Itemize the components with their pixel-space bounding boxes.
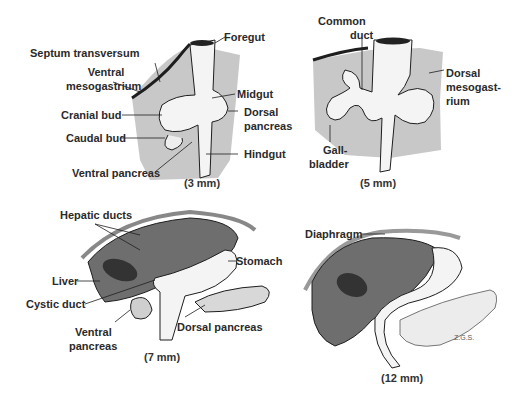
label-dorsal-pancreas: Dorsal pancreas bbox=[177, 321, 263, 333]
label-ventral-pancreas-line2: pancreas bbox=[69, 340, 117, 352]
label-stomach: Stomach bbox=[236, 255, 282, 267]
label-diaphragm: Diaphragm bbox=[305, 228, 362, 240]
label-dorsal-mesogastrium-line3: rium bbox=[446, 95, 470, 107]
label-common-duct-line1: Common bbox=[318, 15, 366, 27]
label-hepatic-ducts: Hepatic ducts bbox=[60, 209, 132, 221]
label-hindgut: Hindgut bbox=[244, 148, 286, 160]
panel-12mm-drawing bbox=[305, 231, 497, 368]
label-caudal-bud: Caudal bud bbox=[66, 132, 126, 144]
label-ventral-pancreas-line1: Ventral bbox=[75, 326, 112, 338]
label-gallbladder-line1: Gall- bbox=[323, 144, 347, 156]
caption-12mm: (12 mm) bbox=[381, 372, 423, 384]
label-dorsal-pancreas-line2: pancreas bbox=[244, 120, 292, 132]
label-ventral-pancreas: Ventral pancreas bbox=[72, 167, 160, 179]
label-common-duct-line2: duct bbox=[350, 29, 373, 41]
label-dorsal-pancreas-line1: Dorsal bbox=[244, 106, 278, 118]
label-ventral-mesogastrium-line2: mesogastrium bbox=[66, 80, 141, 92]
label-cranial-bud: Cranial bud bbox=[61, 109, 122, 121]
caption-3mm: (3 mm) bbox=[184, 177, 220, 189]
label-septum-transversum: Septum transversum bbox=[30, 47, 139, 59]
ventral-pancreas bbox=[131, 298, 152, 319]
label-cystic-duct: Cystic duct bbox=[26, 298, 85, 310]
label-ventral-mesogastrium-line1: Ventral bbox=[66, 66, 146, 78]
label-gallbladder-line2: bladder bbox=[309, 158, 349, 170]
caption-5mm: (5 mm) bbox=[360, 177, 396, 189]
label-midgut: Midgut bbox=[237, 88, 273, 100]
label-liver: Liver bbox=[52, 275, 78, 287]
caption-7mm: (7 mm) bbox=[144, 351, 180, 363]
label-dorsal-mesogastrium-line1: Dorsal bbox=[446, 67, 480, 79]
label-dorsal-mesogastrium-line2: mesogast- bbox=[446, 81, 501, 93]
artist-signature: Z.G.S. bbox=[454, 332, 474, 344]
label-foregut: Foregut bbox=[224, 31, 265, 43]
